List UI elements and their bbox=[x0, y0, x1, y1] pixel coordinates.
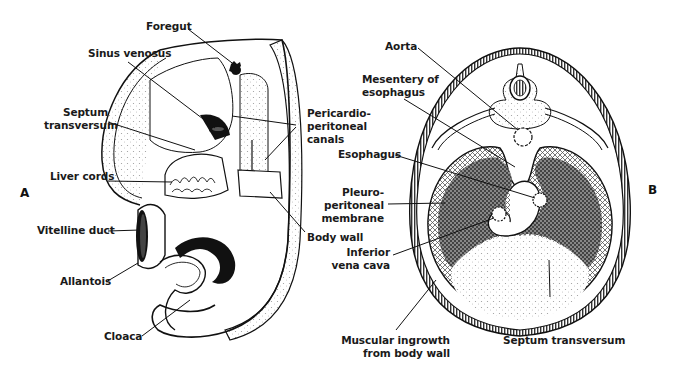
label-septum-line1: Septum bbox=[44, 106, 108, 119]
label-septum-transversum-b: Septum transversum bbox=[503, 334, 625, 347]
embryology-figure: A Foregut Sinus venosus Septum transvers… bbox=[0, 0, 675, 372]
label-sinus-venosus: Sinus venosus bbox=[88, 47, 171, 60]
label-pleuro-line2: peritoneal bbox=[320, 199, 384, 212]
label-esophagus: Esophagus bbox=[338, 148, 401, 161]
panel-b-letter: B bbox=[648, 183, 657, 197]
label-mesentery-of-esophagus: Mesentery of esophagus bbox=[362, 73, 439, 99]
label-pericardio-line2: peritoneal bbox=[307, 120, 371, 133]
label-vitelline-duct: Vitelline duct bbox=[37, 224, 115, 237]
label-mesentery-line1: Mesentery of bbox=[362, 73, 439, 86]
label-pericardioperitoneal-canals: Pericardio- peritoneal canals bbox=[307, 107, 371, 146]
label-pleuro-line1: Pleuro- bbox=[320, 186, 384, 199]
label-muscular-line1: Muscular ingrowth bbox=[338, 334, 450, 347]
label-body-wall: Body wall bbox=[307, 231, 363, 244]
label-liver-cords: Liver cords bbox=[50, 170, 114, 183]
panel-a-drawing bbox=[102, 39, 302, 340]
panel-a-letter: A bbox=[20, 186, 29, 200]
label-ivc-line2: vena cava bbox=[320, 259, 390, 272]
label-pleuro-line3: membrane bbox=[320, 212, 384, 225]
label-septum-line2: transversum bbox=[44, 119, 108, 132]
label-pericardio-line1: Pericardio- bbox=[307, 107, 371, 120]
label-aorta: Aorta bbox=[385, 40, 417, 53]
label-ivc-line1: Inferior bbox=[320, 246, 390, 259]
label-inferior-vena-cava: Inferior vena cava bbox=[320, 246, 390, 272]
panel-b-drawing bbox=[410, 48, 631, 336]
label-pericardio-line3: canals bbox=[307, 133, 371, 146]
label-foregut: Foregut bbox=[146, 20, 192, 33]
label-muscular-line2: from body wall bbox=[338, 347, 450, 360]
label-allantois: Allantois bbox=[60, 275, 111, 288]
label-muscular-ingrowth: Muscular ingrowth from body wall bbox=[338, 334, 450, 360]
label-mesentery-line2: esophagus bbox=[362, 86, 439, 99]
label-pleuroperitoneal-membrane: Pleuro- peritoneal membrane bbox=[320, 186, 384, 225]
label-septum-transversum-a: Septum transversum bbox=[44, 106, 108, 132]
label-cloaca: Cloaca bbox=[104, 330, 142, 343]
